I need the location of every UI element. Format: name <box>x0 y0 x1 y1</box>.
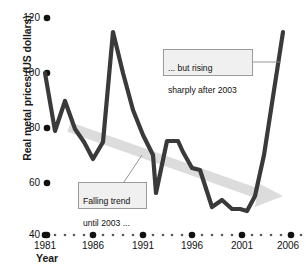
xtick-label-1991: 1991 <box>123 240 163 251</box>
annotation-falling-line2: until 2003 ... <box>83 218 142 229</box>
xtick-label-1996: 1996 <box>172 240 212 251</box>
annotation-falling-line1: Falling trend <box>83 196 142 207</box>
annotation-rising-line1: ... but rising <box>168 63 248 74</box>
x-axis-major-ticks <box>42 232 295 239</box>
ytick-label-40: 40 <box>14 229 40 240</box>
leader-line-falling <box>124 155 142 182</box>
xtick-label-1981: 1981 <box>25 240 65 251</box>
annotation-rising-line2: sharply after 2003 <box>168 85 248 96</box>
chart-plot-area <box>0 0 306 273</box>
xtick-label-2001: 2001 <box>222 240 262 251</box>
y-axis-title: Real metal prices (US dollars) <box>21 0 33 183</box>
xtick-label-2006: 2006 <box>268 240 306 251</box>
annotation-falling-trend: Falling trend until 2003 ... <box>78 182 147 209</box>
x-axis-title: Year <box>36 252 58 264</box>
metal-prices-line-chart: 120 100 80 60 40 1981 1986 1991 1996 200… <box>0 0 306 273</box>
y-axis-ticks <box>44 15 51 239</box>
xtick-label-1986: 1986 <box>73 240 113 251</box>
annotation-rising-sharply: ... but rising sharply after 2003 <box>163 49 253 76</box>
